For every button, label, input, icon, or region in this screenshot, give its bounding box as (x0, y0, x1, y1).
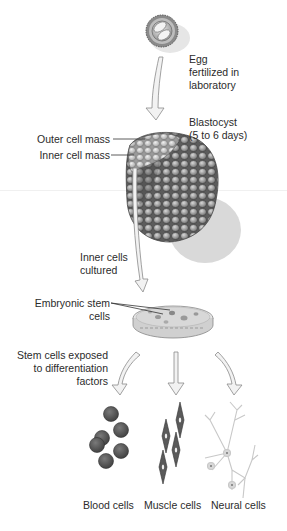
arrow-egg-to-blastocyst (146, 57, 164, 120)
outcome-neural-cells-label: Neural cells (211, 499, 266, 512)
exposed-label: Stem cells exposed to differentiation fa… (10, 349, 108, 388)
egg-label-line-1: Egg (189, 53, 239, 66)
neural-cells-icon (205, 402, 258, 498)
inner-cells-cultured-line-1: Inner cells (80, 251, 128, 264)
arrow-to-neural-cells (215, 352, 242, 395)
blood-cells-icon (90, 407, 129, 469)
outcome-blood-cells-label: Blood cells (83, 499, 134, 512)
inner-cells-cultured-label: Inner cells cultured (80, 251, 128, 277)
embryonic-stem-cells-line-2: cells (20, 310, 110, 323)
fertilized-egg-icon (146, 15, 190, 53)
egg-label: Egg fertilized in laboratory (189, 53, 239, 92)
embryonic-stem-cells-line-1: Embryonic stem (20, 297, 110, 310)
petri-dish-icon (133, 306, 213, 338)
exposed-label-line-1: Stem cells exposed (10, 349, 108, 362)
outer-cell-mass-label: Outer cell mass (20, 133, 110, 146)
outcome-muscle-cells-label: Muscle cells (144, 499, 201, 512)
blastocyst-label-line-2: (5 to 6 days) (189, 129, 247, 142)
blastocyst-icon (126, 132, 218, 242)
egg-label-line-3: laboratory (189, 79, 239, 92)
blastocyst-label: Blastocyst (5 to 6 days) (189, 116, 247, 142)
arrow-to-muscle-cells (168, 352, 184, 395)
embryonic-stem-cells-label: Embryonic stem cells (20, 297, 110, 323)
exposed-label-line-2: to differentiation (10, 362, 108, 375)
egg-label-line-2: fertilized in (189, 66, 239, 79)
diagram-graphics (0, 0, 287, 531)
inner-cell-mass-label: Inner cell mass (20, 149, 110, 162)
muscle-cells-icon (159, 402, 184, 484)
inner-cells-cultured-line-2: cultured (80, 264, 128, 277)
exposed-label-line-3: factors (10, 375, 108, 388)
arrow-to-blood-cells (112, 352, 140, 395)
blastocyst-label-line-1: Blastocyst (189, 116, 247, 129)
